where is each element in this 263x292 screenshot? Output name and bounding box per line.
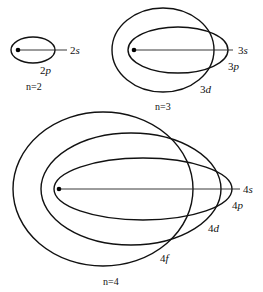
label-3p: 3p	[228, 60, 240, 72]
orbit-diagram: 2s 2p n=2 3s 3p 3d n=3 4s 4p 4d 4f n=4	[0, 0, 263, 292]
label-n4: n=4	[103, 276, 119, 287]
label-4d: 4d	[208, 222, 220, 234]
label-n3: n=3	[155, 101, 171, 112]
label-2s: 2s	[70, 44, 80, 56]
group-n2: 2s 2p n=2	[11, 37, 80, 92]
nucleus-n3	[132, 48, 137, 53]
nucleus-n2	[16, 48, 21, 53]
label-2p: 2p	[40, 64, 52, 76]
label-4p: 4p	[232, 199, 244, 211]
group-n3: 3s 3p 3d n=3	[112, 8, 248, 112]
label-n2: n=2	[26, 81, 42, 92]
label-3d: 3d	[200, 83, 212, 95]
label-4s: 4s	[243, 183, 253, 195]
group-n4: 4s 4p 4d 4f n=4	[13, 112, 253, 287]
label-3s: 3s	[238, 44, 248, 56]
nucleus-n4	[57, 187, 62, 192]
label-4f: 4f	[160, 252, 171, 264]
